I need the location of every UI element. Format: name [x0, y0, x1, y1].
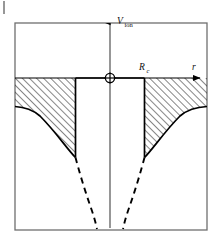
page-background	[0, 0, 222, 240]
rc-label-main: R	[138, 62, 145, 72]
x-axis-label-main: r	[192, 62, 196, 72]
x-axis-label: r	[192, 62, 196, 72]
y-axis-label-sub: ion	[125, 21, 134, 28]
rc-label-sub: c	[147, 67, 150, 74]
figure-container: V ion r R c	[0, 0, 222, 240]
potential-plot: V ion r R c	[0, 0, 222, 240]
